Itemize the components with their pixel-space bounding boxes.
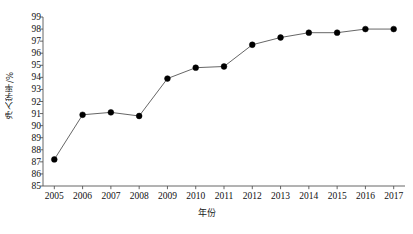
data-point-marker [108,109,114,115]
data-point-marker [363,26,369,32]
data-point-marker [51,157,57,163]
data-point-marker [334,30,340,36]
data-point-marker [391,26,397,32]
data-point-marker [306,30,312,36]
data-point-marker [80,112,86,118]
data-point-marker [136,113,142,119]
data-point-marker [165,76,171,82]
data-point-marker [221,64,227,70]
line-chart: 净入学率/% 年份 858687888990919293949596979899… [0,0,413,234]
plot-area [0,0,413,234]
series-line-net-enrollment [54,29,393,159]
data-point-marker [249,42,255,48]
data-point-marker [193,65,199,71]
data-point-marker [278,35,284,41]
